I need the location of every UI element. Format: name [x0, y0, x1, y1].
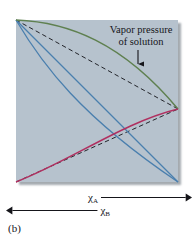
- figure-panel-b: Vapor pressure of solution χA χB (b): [0, 0, 196, 249]
- axis-chi-a-arrow: [101, 193, 192, 202]
- panel-label: (b): [8, 222, 21, 234]
- callout-line-1: Vapor pressure: [98, 24, 184, 36]
- axis-chi-a-label: χA: [88, 191, 98, 203]
- axis-chi-b-label: χB: [100, 204, 110, 216]
- axis-chi-b-subscript: B: [105, 210, 110, 218]
- axis-chi-b: χB: [6, 203, 110, 217]
- callout-line-2: of solution: [98, 36, 184, 48]
- axis-chi-b-arrow: [6, 206, 97, 215]
- axis-chi-a: χA: [88, 190, 192, 204]
- vapor-pressure-callout: Vapor pressure of solution: [98, 24, 184, 47]
